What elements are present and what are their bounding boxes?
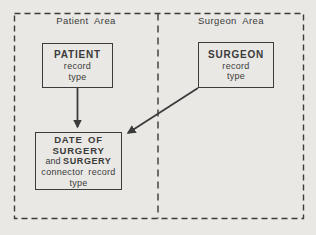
- patient-record-type-box: PATIENT record type: [42, 43, 113, 88]
- connector-box-line4: connector record: [41, 167, 115, 178]
- connector-box-line3-and: and: [46, 156, 61, 166]
- connector-box-line5: type: [69, 178, 87, 189]
- connector-box-line2: SURGERY: [52, 145, 104, 156]
- arrow-surgeon-to-connector: [128, 88, 198, 133]
- connector-box-line3-surgery: SURGERY: [63, 156, 111, 166]
- patient-box-line2: record: [64, 61, 91, 72]
- connector-box-line1: DATE OF: [54, 134, 103, 145]
- patient-box-line3: type: [68, 72, 86, 83]
- surgeon-record-type-box: SURGEON record type: [198, 42, 274, 88]
- surgeon-box-title: SURGEON: [208, 49, 264, 61]
- patient-box-title: PATIENT: [54, 49, 101, 61]
- scanned-diagram-page: Patient Area Surgeon Area PATIENT record…: [0, 0, 316, 235]
- surgery-connector-record-type-box: DATE OF SURGERY and SURGERY connector re…: [35, 132, 122, 190]
- diagram-lines-layer: [0, 0, 316, 235]
- patient-area-label: Patient Area: [14, 15, 158, 26]
- surgeon-area-label: Surgeon Area: [158, 15, 304, 26]
- connector-box-line3: and SURGERY: [46, 156, 112, 167]
- surgeon-box-line2: record: [222, 61, 249, 72]
- surgeon-box-line3: type: [227, 71, 245, 82]
